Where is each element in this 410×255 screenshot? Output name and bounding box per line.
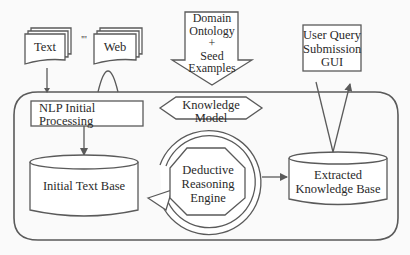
- knowledge-model-line2: Model: [176, 112, 246, 125]
- initial-text-base-label: Initial Text Base: [30, 180, 138, 193]
- edge-web-to-nlp: [98, 71, 118, 92]
- extracted-kb-line1: Extracted: [286, 168, 390, 182]
- reasoning-engine-label: Deductive Reasoning Engine: [172, 163, 244, 205]
- domain-ontology-line1: Domain: [183, 12, 241, 25]
- web-document-label: Web: [96, 41, 134, 54]
- user-query-line1: User Query: [303, 29, 361, 43]
- reasoning-engine-line3: Engine: [172, 191, 244, 205]
- ellipsis-label: ''': [77, 33, 91, 46]
- domain-ontology-label: Domain Ontology + Seed Examples: [183, 12, 241, 75]
- reasoning-engine-line2: Reasoning: [172, 177, 244, 191]
- reasoning-engine-line1: Deductive: [172, 163, 244, 177]
- nlp-label: NLP Initial Processing: [39, 102, 139, 128]
- user-query-label: User Query Submission GUI: [303, 29, 361, 70]
- user-query-line2: Submission: [303, 43, 361, 57]
- knowledge-model-label: Knowledge Model: [176, 99, 246, 125]
- extracted-kb-line2: Knowledge Base: [286, 182, 390, 196]
- edge-kb-to-gui: [333, 84, 350, 152]
- user-query-line3: GUI: [303, 56, 361, 70]
- text-document-label: Text: [27, 41, 63, 54]
- domain-ontology-line3: +: [183, 37, 241, 50]
- extracted-kb-label: Extracted Knowledge Base: [286, 168, 390, 196]
- nlp-line2: Processing: [39, 115, 139, 128]
- domain-ontology-line5: Examples: [183, 62, 241, 75]
